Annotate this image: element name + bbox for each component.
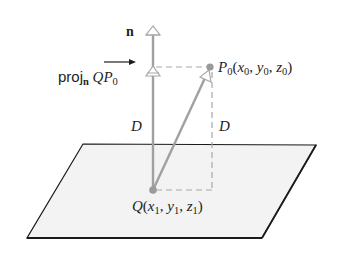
p0-comma-1: , — [249, 59, 257, 75]
p0-y: y — [257, 59, 264, 75]
q-name: Q — [132, 198, 143, 214]
plane — [27, 144, 316, 238]
p0-name: P — [218, 59, 227, 75]
q-x: x — [148, 198, 155, 214]
proj-subscript: n — [83, 76, 89, 87]
vector-qp0-arrowhead-icon — [200, 70, 211, 82]
p0-label: P0(x0, y0, z0) — [218, 60, 292, 77]
q-close-paren: ) — [198, 198, 203, 214]
proj-vector-subscript: 0 — [113, 76, 118, 87]
projection-label: projn QP0 — [58, 69, 118, 87]
distance-label-left: D — [131, 119, 142, 134]
vector-overarrow-head-icon — [129, 59, 136, 65]
normal-vector-arrowhead-icon — [146, 26, 160, 35]
point-p0 — [206, 63, 213, 70]
point-q — [149, 186, 157, 194]
proj-text: proj — [58, 68, 83, 85]
q-comma-2: , — [179, 198, 187, 214]
proj-vector-text: QP — [93, 69, 113, 85]
q-y: y — [167, 198, 174, 214]
normal-label: n — [126, 25, 134, 39]
q-label: Q(x1, y1, z1) — [132, 199, 203, 216]
distance-label-right: D — [219, 119, 230, 134]
p0-close-paren: ) — [287, 59, 292, 75]
